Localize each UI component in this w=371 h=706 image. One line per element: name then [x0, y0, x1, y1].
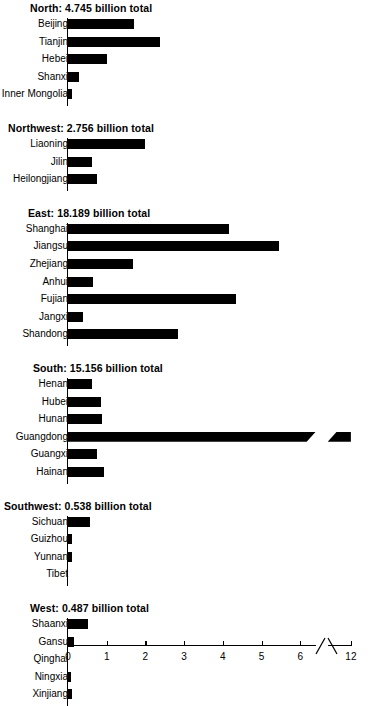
bar-sichuan	[68, 517, 90, 527]
chart-row: Hainan	[0, 466, 371, 478]
chart-row: Tianjin	[0, 36, 371, 48]
bar-label-heilongjiang: Heilongjiang	[13, 173, 68, 185]
bar-hainan	[68, 467, 104, 477]
x-tick	[223, 641, 224, 646]
x-tick	[68, 641, 69, 646]
bar-hebei	[68, 54, 107, 64]
bar-label-tibet: Tibet	[46, 568, 68, 580]
bar-label-zhejiang: Zhejiang	[30, 258, 68, 270]
chart-row: Guizhou	[0, 533, 371, 545]
bar-guizhou	[68, 534, 72, 544]
x-tick	[262, 641, 263, 646]
bar-shanghai	[68, 224, 229, 234]
axis-break-slash	[315, 637, 327, 655]
bar-label-inner-mongolia: Inner Mongolia	[2, 88, 68, 100]
bar-guangdong-left-segment	[68, 432, 316, 442]
bar-jilin	[68, 157, 92, 167]
group-title-north: North: 4.745 billion total	[30, 2, 152, 14]
chart-row: Anhui	[0, 276, 371, 288]
chart-row: Zhejiang	[0, 258, 371, 270]
bar-shandong	[68, 329, 178, 339]
bar-label-guangdong: Guangdong	[16, 431, 68, 443]
chart-row: Jangxi	[0, 311, 371, 323]
bar-label-sichuan: Sichuan	[32, 516, 68, 528]
bar-yunnan	[68, 552, 72, 562]
chart-row: Xinjiang	[0, 688, 371, 700]
bar-fujian	[68, 294, 236, 304]
bar-label-hainan: Hainan	[36, 466, 68, 478]
x-tick-label: 12	[345, 651, 356, 662]
bar-label-yunnan: Yunnan	[34, 551, 68, 563]
x-tick	[107, 641, 108, 646]
bar-hunan	[68, 414, 102, 424]
chart-row: Beijing	[0, 18, 371, 30]
bar-label-guangxi: Guangxi	[31, 448, 68, 460]
bar-label-jilin: Jilin	[51, 156, 68, 168]
bar-liaoning	[68, 139, 145, 149]
bar-zhejiang	[68, 259, 133, 269]
chart-row: Hubei	[0, 396, 371, 408]
bar-shaanxi	[68, 619, 88, 629]
bar-label-tianjin: Tianjin	[39, 36, 68, 48]
bar-jangxi	[68, 312, 83, 322]
bar-henan	[68, 379, 92, 389]
x-tick-label: 5	[259, 651, 265, 662]
chart-row: Jiangsu	[0, 240, 371, 252]
x-tick	[351, 641, 352, 646]
chart-row: Jilin	[0, 156, 371, 168]
chart-row: Shaanxi	[0, 618, 371, 630]
bar-shanxi	[68, 72, 79, 82]
x-axis: 012345612	[0, 645, 371, 675]
bar-label-beijing: Beijing	[38, 18, 68, 30]
bar-xinjiang	[68, 689, 72, 699]
chart-row: Henan	[0, 378, 371, 390]
x-axis-line-left	[68, 645, 316, 646]
bar-tianjin	[68, 37, 160, 47]
bar-heilongjiang	[68, 174, 97, 184]
bar-label-fujian: Fujian	[41, 293, 68, 305]
x-tick	[184, 641, 185, 646]
group-title-northwest: Northwest: 2.756 billion total	[8, 122, 154, 134]
bar-label-hubei: Hubei	[42, 396, 68, 408]
chart-row: Hebei	[0, 53, 371, 65]
chart-row: Fujian	[0, 293, 371, 305]
axis-break-slash	[327, 637, 339, 655]
chart-row: Guangdong	[0, 431, 371, 443]
bar-label-liaoning: Liaoning	[30, 138, 68, 150]
x-tick-label: 0	[65, 651, 71, 662]
bar-beijing	[68, 19, 134, 29]
bar-label-shaanxi: Shaanxi	[32, 618, 68, 630]
chart-row: Guangxi	[0, 448, 371, 460]
chart-row: Heilongjiang	[0, 173, 371, 185]
bar-label-jangxi: Jangxi	[39, 311, 68, 323]
group-title-south: South: 15.156 billion total	[33, 362, 163, 374]
bar-anhui	[68, 277, 93, 287]
bar-label-xinjiang: Xinjiang	[32, 688, 68, 700]
x-tick-label: 3	[181, 651, 187, 662]
x-tick-label: 1	[104, 651, 110, 662]
chart-row: Inner Mongolia	[0, 88, 371, 100]
bar-label-shanxi: Shanxi	[37, 71, 68, 83]
group-title-southwest: Southwest: 0.538 billion total	[4, 500, 152, 512]
chart-row: Yunnan	[0, 551, 371, 563]
x-tick	[145, 641, 146, 646]
chart-row: Shandong	[0, 328, 371, 340]
chart-row: Tibet	[0, 568, 371, 580]
bar-label-guizhou: Guizhou	[31, 533, 68, 545]
x-tick-label: 2	[143, 651, 149, 662]
chart-row: Shanxi	[0, 71, 371, 83]
bar-hubei	[68, 397, 101, 407]
chart-row: Liaoning	[0, 138, 371, 150]
chart-row: Shanghai	[0, 223, 371, 235]
chart-row: Hunan	[0, 413, 371, 425]
chart-row: Sichuan	[0, 516, 371, 528]
bar-label-henan: Henan	[39, 378, 68, 390]
bar-label-jiangsu: Jiangsu	[34, 240, 68, 252]
bar-label-shandong: Shandong	[22, 328, 68, 340]
bar-label-hunan: Hunan	[39, 413, 68, 425]
x-tick	[300, 641, 301, 646]
bar-label-anhui: Anhui	[42, 276, 68, 288]
bar-inner-mongolia	[68, 89, 72, 99]
bar-guangxi	[68, 449, 97, 459]
